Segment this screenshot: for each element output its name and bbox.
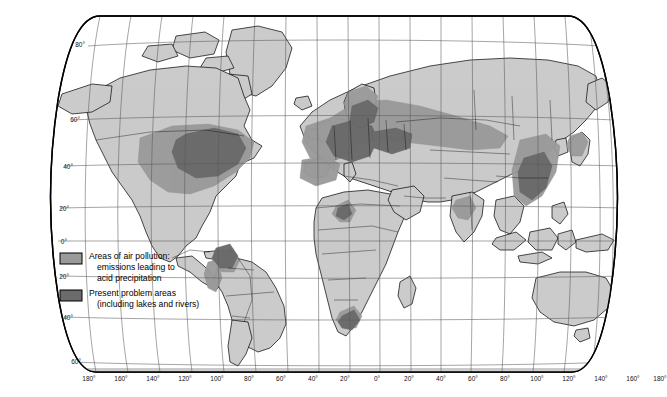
- lon-label: 20°: [404, 375, 414, 382]
- lon-label: 60°: [276, 375, 286, 382]
- lat-label: 60°: [71, 358, 81, 365]
- lon-label: 100°: [530, 375, 544, 382]
- lat-label: 60°: [70, 116, 80, 123]
- lon-label: 140°: [594, 375, 608, 382]
- legend-swatch-emission: [60, 253, 82, 264]
- lon-label: 80°: [500, 375, 510, 382]
- lat-label: 20°: [59, 205, 69, 212]
- lon-label: 140°: [146, 375, 160, 382]
- lon-label: 60°: [468, 375, 478, 382]
- lon-label: 180°: [82, 375, 96, 382]
- lon-label: 40°: [436, 375, 446, 382]
- lon-label: 180°: [653, 375, 667, 382]
- lon-label: 120°: [178, 375, 192, 382]
- lon-label: 0°: [374, 375, 381, 382]
- lon-label: 160°: [626, 375, 640, 382]
- lon-label: 40°: [308, 375, 318, 382]
- lat-label: 40°: [63, 163, 73, 170]
- lat-label: 0°: [61, 238, 68, 245]
- legend-label-problem-line2: (including lakes and rivers): [97, 299, 199, 309]
- lon-label: 20°: [340, 375, 350, 382]
- lat-label: 20°: [59, 273, 69, 280]
- lat-label: 80°: [75, 41, 85, 48]
- legend-label-problem-line1: Present problem areas: [89, 288, 176, 298]
- lon-label: 80°: [244, 375, 254, 382]
- lon-label: 100°: [210, 375, 224, 382]
- lon-label: 120°: [562, 375, 576, 382]
- legend-label-emission-line1: Areas of air pollution:: [89, 251, 170, 261]
- acid-precipitation-map: 80° 60° 40° 20° 0° 20° 40° 60° 180° 160°…: [0, 0, 667, 397]
- world-map-svg: 80° 60° 40° 20° 0° 20° 40° 60° 180° 160°…: [0, 0, 667, 397]
- legend-label-emission-line3: acid precipitation: [97, 273, 162, 283]
- longitude-labels: 180° 160° 140° 120° 100° 80° 60° 40° 20°…: [82, 375, 667, 382]
- lat-label: 40°: [63, 314, 73, 321]
- legend-label-emission-line2: emissions leading to: [97, 262, 175, 272]
- land-new-zealand: [624, 312, 640, 332]
- legend-swatch-problem: [60, 290, 82, 301]
- land-new-zealand-south: [614, 328, 630, 348]
- lon-label: 160°: [114, 375, 128, 382]
